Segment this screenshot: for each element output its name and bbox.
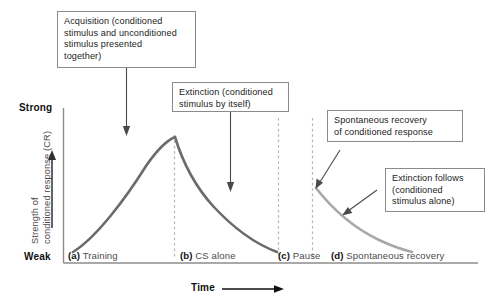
phase-marker-c: (c) (278, 250, 290, 261)
extinction-curve (175, 137, 277, 252)
y-axis-top-label: Strong (19, 102, 52, 113)
acquisition-callout-arrow (123, 68, 130, 136)
callout-extinction: Extinction (conditioned stimulus by itse… (172, 82, 289, 112)
phase-text-c: Pause (293, 250, 321, 261)
phase-marker-b: (b) (180, 250, 193, 261)
y-axis-bottom-label: Weak (24, 251, 51, 262)
extinction-callout-arrow (227, 112, 234, 192)
phase-text-d: Spontaneous recovery (346, 250, 444, 261)
phase-label-spontaneous-recovery: (d) Spontaneous recovery (331, 250, 444, 261)
phase-marker-a: (a) (68, 250, 80, 261)
time-axis-arrow (222, 285, 284, 292)
callout-acquisition: Acquisition (conditioned stimulus and un… (57, 11, 196, 68)
callout-extinction-follows: Extinction follows (conditioned stimulus… (385, 168, 485, 212)
extinction-follows-callout-arrow (342, 190, 377, 216)
spontaneous-recovery-callout-arrow (316, 150, 341, 189)
x-axis-title: Time (191, 282, 215, 293)
phase-label-cs-alone: (b) CS alone (180, 250, 236, 261)
phase-text-b: CS alone (195, 250, 235, 261)
y-axis-title: Strength of conditioned response (CR) (30, 131, 53, 244)
phase-text-a: Training (83, 250, 118, 261)
phase-marker-d: (d) (331, 250, 344, 261)
conditioning-curve-figure: Acquisition (conditioned stimulus and un… (0, 0, 502, 301)
phase-label-pause: (c) Pause (278, 250, 321, 261)
phase-label-training: (a) Training (68, 250, 118, 261)
callout-spontaneous-recovery: Spontaneous recovery of conditioned resp… (327, 110, 463, 142)
acquisition-curve (73, 137, 175, 252)
